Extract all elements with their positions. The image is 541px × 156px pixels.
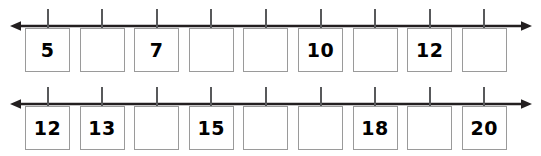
number-line-worksheet: 571012 1213151820 [0, 0, 541, 156]
number-box-blank[interactable] [134, 106, 179, 150]
number-box-filled[interactable]: 10 [298, 28, 343, 72]
tick-mark [374, 87, 376, 107]
number-box-filled[interactable]: 15 [189, 106, 234, 150]
tick-mark [210, 87, 212, 107]
number-box-filled[interactable]: 12 [25, 106, 70, 150]
number-box-value: 10 [307, 41, 334, 60]
tick-mark [101, 87, 103, 107]
number-box-value: 18 [361, 119, 388, 138]
tick-mark [429, 9, 431, 29]
tick-mark [265, 87, 267, 107]
number-box-blank[interactable] [189, 28, 234, 72]
number-box-filled[interactable]: 12 [407, 28, 452, 72]
number-line-row-1: 571012 [0, 0, 541, 78]
number-box-filled[interactable]: 5 [25, 28, 70, 72]
tick-mark [483, 87, 485, 107]
number-box-value: 15 [198, 119, 225, 138]
tick-mark [265, 9, 267, 29]
number-box-blank[interactable] [243, 106, 288, 150]
tick-mark [210, 9, 212, 29]
number-box-value: 7 [150, 41, 164, 60]
tick-group-2 [0, 78, 541, 108]
answer-box-group-1: 571012 [0, 28, 541, 74]
number-box-value: 12 [416, 41, 443, 60]
number-box-value: 12 [34, 119, 61, 138]
tick-mark [429, 87, 431, 107]
tick-mark [101, 9, 103, 29]
number-box-blank[interactable] [80, 28, 125, 72]
number-box-blank[interactable] [243, 28, 288, 72]
tick-mark [156, 9, 158, 29]
tick-mark [156, 87, 158, 107]
tick-mark [47, 87, 49, 107]
tick-mark [320, 9, 322, 29]
tick-mark [320, 87, 322, 107]
answer-box-group-2: 1213151820 [0, 106, 541, 152]
number-box-value: 20 [471, 119, 498, 138]
number-box-filled[interactable]: 20 [462, 106, 507, 150]
number-box-blank[interactable] [298, 106, 343, 150]
number-box-filled[interactable]: 13 [80, 106, 125, 150]
number-box-blank[interactable] [462, 28, 507, 72]
number-box-filled[interactable]: 18 [353, 106, 398, 150]
number-box-value: 5 [41, 41, 55, 60]
number-box-value: 13 [88, 119, 115, 138]
tick-mark [374, 9, 376, 29]
number-box-blank[interactable] [353, 28, 398, 72]
number-line-row-2: 1213151820 [0, 78, 541, 156]
number-box-filled[interactable]: 7 [134, 28, 179, 72]
number-box-blank[interactable] [407, 106, 452, 150]
tick-mark [483, 9, 485, 29]
tick-group-1 [0, 0, 541, 30]
tick-mark [47, 9, 49, 29]
